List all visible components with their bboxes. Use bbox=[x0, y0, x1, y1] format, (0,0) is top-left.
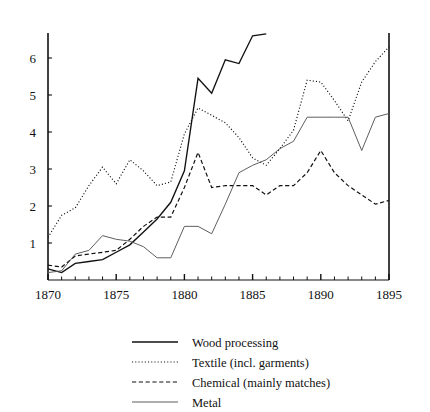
x-axis-tick-label: 1875 bbox=[103, 287, 129, 302]
series-line-wood-processing bbox=[48, 34, 266, 273]
y-axis-tick-label: 2 bbox=[30, 199, 37, 214]
x-axis-tick-label: 1890 bbox=[308, 287, 334, 302]
chart-figure: 123456 187018751880188518901895 Wood pro… bbox=[0, 0, 430, 412]
y-axis-tick-label: 1 bbox=[30, 236, 37, 251]
y-axis: 123456 bbox=[30, 33, 53, 280]
x-axis-tick-label: 1885 bbox=[240, 287, 266, 302]
data-series-group bbox=[48, 34, 389, 273]
legend-label: Wood processing bbox=[192, 336, 279, 350]
line-chart: 123456 187018751880188518901895 Wood pro… bbox=[0, 0, 430, 412]
legend-label: Textile (incl. garments) bbox=[192, 356, 309, 370]
legend-label: Metal bbox=[192, 396, 222, 410]
y-axis-tick-label: 4 bbox=[30, 125, 37, 140]
y-axis-tick-label: 3 bbox=[30, 162, 37, 177]
y-axis-tick-label: 5 bbox=[30, 88, 37, 103]
x-axis-tick-label: 1880 bbox=[171, 287, 197, 302]
y-axis-tick-label: 6 bbox=[30, 51, 37, 66]
legend-label: Chemical (mainly matches) bbox=[192, 376, 330, 390]
chart-legend: Wood processingTextile (incl. garments)C… bbox=[132, 336, 330, 410]
series-line-chemical-mainly-matches bbox=[48, 151, 389, 268]
series-line-metal bbox=[48, 114, 389, 273]
x-axis-tick-label: 1870 bbox=[35, 287, 61, 302]
x-axis-tick-label: 1895 bbox=[376, 287, 402, 302]
